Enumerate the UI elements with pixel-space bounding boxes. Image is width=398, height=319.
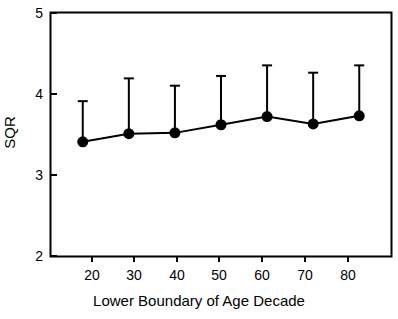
data-point-marker [123, 128, 134, 139]
y-axis-tick-labels: 5 4 3 2 [35, 5, 43, 264]
chart-container: 5 4 3 2 20 30 40 50 60 70 80 [0, 0, 398, 319]
data-point-marker [262, 111, 273, 122]
y-tick-label-5: 5 [35, 5, 43, 21]
y-tick-label-2: 2 [35, 248, 43, 264]
data-point-marker [354, 110, 365, 121]
x-tick-label-40: 40 [169, 267, 185, 283]
x-tick-label-70: 70 [297, 267, 313, 283]
x-tick-label-50: 50 [211, 267, 227, 283]
x-tick-label-30: 30 [126, 267, 142, 283]
x-tick-label-20: 20 [84, 267, 100, 283]
chart-plot-area: 5 4 3 2 20 30 40 50 60 70 80 [0, 0, 398, 319]
x-tick-label-60: 60 [254, 267, 270, 283]
y-tick-label-4: 4 [35, 86, 43, 102]
y-tick-label-3: 3 [35, 167, 43, 183]
data-point-marker [216, 119, 227, 130]
x-axis-title: Lower Boundary of Age Decade [0, 292, 398, 309]
data-point-marker [308, 118, 319, 129]
x-axis-tick-labels: 20 30 40 50 60 70 80 [84, 267, 356, 283]
data-point-marker [77, 136, 88, 147]
plot-frame [51, 13, 392, 257]
y-axis-title: SQR [1, 103, 18, 163]
data-point-marker [169, 127, 180, 138]
x-tick-label-80: 80 [340, 267, 356, 283]
